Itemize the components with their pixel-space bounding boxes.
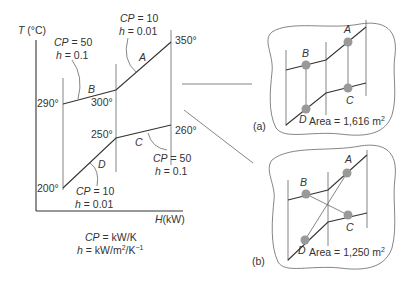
panel-a-node-b — [302, 61, 311, 70]
stream-c-cp: CP = 50 — [153, 152, 191, 164]
stream-c-label: C — [135, 136, 143, 148]
stream-b-label: B — [88, 83, 95, 95]
stream-d-cp: CP = 10 — [76, 185, 114, 197]
units-cp: CP = kW/K — [85, 231, 137, 243]
connector-to-b — [184, 110, 253, 163]
panel-b-node-c — [344, 211, 353, 220]
temp-290: 290° — [37, 97, 59, 109]
panel-b-exchanger-da — [305, 173, 347, 240]
leader-d — [90, 163, 98, 186]
temp-200: 200° — [37, 182, 59, 194]
panel-b-node-a — [343, 169, 352, 178]
stream-b-cp: CP = 50 — [54, 36, 92, 48]
panel-a-area: Area = 1,616 m2 — [309, 115, 385, 127]
heat-exchanger-network-diagram: T (°C) H(kW) 290° 300° 350° 250° 260° 20… — [0, 0, 408, 282]
panel-a-label-b: B — [302, 47, 309, 59]
panel-a-node-a — [344, 38, 353, 47]
panel-a-node-c — [344, 84, 353, 93]
stream-d-label: D — [98, 158, 106, 170]
panel-b-label-b: B — [300, 176, 307, 188]
stream-a-label: A — [138, 51, 146, 63]
temperature-enthalpy-plot: T (°C) H(kW) 290° 300° 350° 250° 260° 20… — [18, 12, 197, 256]
units-h: h = kW/m2/K−1 — [77, 244, 144, 256]
panel-b-label-d: D — [298, 244, 306, 256]
panel-a-label-d: D — [299, 113, 307, 125]
leader-a — [126, 38, 136, 72]
stream-d-h: h = 0.01 — [75, 198, 113, 210]
panel-b-network: (b) B A C D Area = 1,250 m2 — [252, 145, 395, 269]
panel-b-area: Area = 1,250 m2 — [309, 246, 385, 258]
panel-a-label-c: C — [346, 94, 354, 106]
temp-250: 250° — [91, 128, 113, 140]
leader-b — [72, 60, 80, 99]
temp-300: 300° — [91, 96, 113, 108]
stream-c-h: h = 0.1 — [155, 165, 188, 177]
panel-a-network: (a) B A C D Area = 1,616 m2 — [253, 20, 395, 135]
stream-a-cp: CP = 10 — [120, 12, 158, 24]
panel-a-tag: (a) — [253, 120, 266, 132]
h-axis-label: H(kW) — [155, 213, 185, 225]
panel-b-node-b — [302, 190, 311, 199]
t-axis-label: T (°C) — [18, 24, 46, 36]
panel-b-tag: (b) — [252, 255, 265, 267]
panel-b-label-a: A — [344, 153, 352, 165]
panel-a-label-a: A — [343, 23, 351, 35]
stream-b-h: h = 0.1 — [56, 49, 89, 61]
stream-a-h: h = 0.01 — [119, 25, 157, 37]
temp-350: 350° — [175, 34, 197, 46]
leader-c — [148, 133, 167, 150]
temp-260: 260° — [175, 124, 197, 136]
panel-b-label-c: C — [346, 221, 354, 233]
